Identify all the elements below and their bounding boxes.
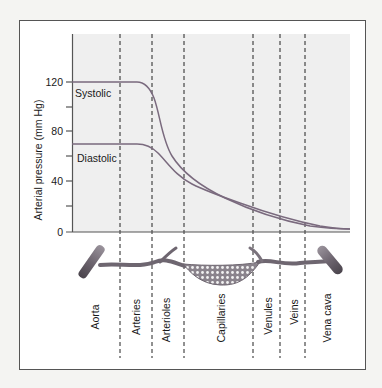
tick-label-120: 120 (45, 76, 63, 88)
region-label-capillaries: Capillaries (215, 293, 227, 342)
region-label-arteries: Arteries (130, 299, 142, 335)
tick-label-40: 40 (51, 175, 63, 187)
region-label-arterioles: Arterioles (160, 298, 172, 342)
vessel-illustration (77, 244, 345, 286)
region-label-vena-cava: Vena cava (321, 293, 333, 342)
tick-label-80: 80 (51, 125, 63, 137)
veins-vessel-icon (258, 261, 330, 264)
diastolic-label: Diastolic (77, 152, 117, 164)
aorta-vessel-icon (77, 244, 106, 280)
plot-area (73, 34, 350, 232)
arteries-vessel-icon (100, 260, 185, 266)
capillary-bed-icon (183, 262, 260, 285)
region-label-venules: Venules (262, 297, 274, 334)
y-ticks (66, 82, 72, 206)
region-label-aorta: Aorta (89, 304, 101, 329)
venule-branch-icon (250, 248, 262, 261)
region-label-veins: Veins (288, 299, 300, 325)
pressure-chart: 120 80 40 0 Arterial pressure (mm Hg) Sy… (0, 0, 382, 388)
tick-label-0: 0 (57, 226, 63, 238)
systolic-label: Systolic (75, 87, 111, 99)
y-axis-title: Arterial pressure (mm Hg) (32, 100, 44, 221)
